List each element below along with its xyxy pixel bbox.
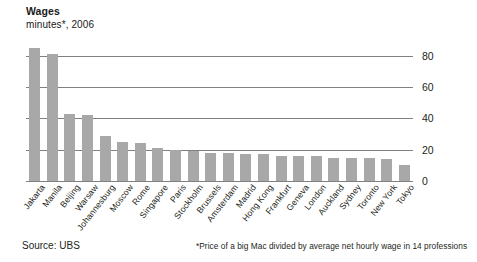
bar-auckland[interactable] xyxy=(328,158,339,182)
bar-slot xyxy=(360,40,378,181)
bar-johannesburg[interactable] xyxy=(100,136,111,181)
bar-slot xyxy=(184,40,202,181)
y-tick-label-40: 40 xyxy=(422,113,434,124)
bar-slot xyxy=(220,40,238,181)
bar-rome[interactable] xyxy=(135,143,146,181)
bar-slot xyxy=(44,40,62,181)
bar-slot xyxy=(395,40,413,181)
bar-paris[interactable] xyxy=(170,150,181,181)
bar-warsaw[interactable] xyxy=(82,115,93,181)
bar-slot xyxy=(255,40,273,181)
bar-toronto[interactable] xyxy=(364,158,375,182)
bar-stockholm[interactable] xyxy=(188,151,199,181)
bar-series xyxy=(26,40,413,181)
bar-beijing[interactable] xyxy=(64,114,75,181)
y-axis: 020406080 xyxy=(416,40,456,181)
bar-tokyo[interactable] xyxy=(399,165,410,181)
source-note: Source: UBS xyxy=(22,240,80,251)
chart-title: Wages xyxy=(26,5,94,18)
bar-london[interactable] xyxy=(311,156,322,181)
bar-singapore[interactable] xyxy=(152,148,163,181)
chart-header: Wages minutes*, 2006 xyxy=(26,5,94,31)
bar-moscow[interactable] xyxy=(117,142,128,181)
bar-slot xyxy=(79,40,97,181)
y-tick-label-60: 60 xyxy=(422,82,434,93)
x-tick-label-tokyo: Tokyo xyxy=(395,183,416,207)
bar-new-york[interactable] xyxy=(381,159,392,181)
bar-frankfurt[interactable] xyxy=(276,156,287,181)
y-tick-label-20: 20 xyxy=(422,144,434,155)
bar-slot xyxy=(167,40,185,181)
bar-slot xyxy=(237,40,255,181)
x-axis: JakartaManilaBeijingWarsawJohannesburgMo… xyxy=(26,181,413,241)
bar-amsterdam[interactable] xyxy=(223,153,234,181)
bar-hong-kong[interactable] xyxy=(258,154,269,181)
y-tick-label-0: 0 xyxy=(422,176,428,187)
bar-slot xyxy=(114,40,132,181)
chart-plot-area xyxy=(26,40,413,181)
bar-sydney[interactable] xyxy=(346,158,357,182)
bar-slot xyxy=(378,40,396,181)
chart-subtitle: minutes*, 2006 xyxy=(26,18,94,31)
bar-brussels[interactable] xyxy=(205,153,216,181)
bar-madrid[interactable] xyxy=(240,154,251,181)
bar-slot xyxy=(308,40,326,181)
bar-slot xyxy=(325,40,343,181)
bar-slot xyxy=(272,40,290,181)
bar-slot xyxy=(343,40,361,181)
bar-slot xyxy=(132,40,150,181)
bar-slot xyxy=(26,40,44,181)
bar-slot xyxy=(202,40,220,181)
bar-geneva[interactable] xyxy=(293,156,304,181)
bar-manila[interactable] xyxy=(47,54,58,181)
bar-slot xyxy=(96,40,114,181)
bar-jakarta[interactable] xyxy=(29,48,40,181)
bar-slot xyxy=(290,40,308,181)
y-tick-label-80: 80 xyxy=(422,50,434,61)
bar-slot xyxy=(149,40,167,181)
bar-slot xyxy=(61,40,79,181)
footnote: *Price of a big Mac divided by average n… xyxy=(196,241,467,251)
